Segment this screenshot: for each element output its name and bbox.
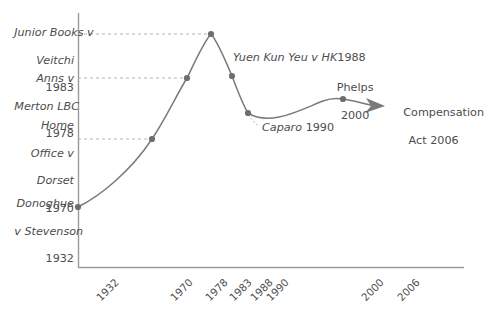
annotation-yuen-kun-yeu: Yuen Kun Yeu v HK1988 [233,51,366,65]
data-point-1988 [229,73,235,79]
annotation-donoghue: Donoghue v Stevenson 1932 [0,183,74,280]
gridlines [78,34,211,139]
annotation-home-office-line1: Home [41,119,74,132]
data-point-1978 [184,75,190,81]
annotation-donoghue-line1: Donoghue [16,197,74,210]
annotation-donoghue-year: 1932 [46,252,74,265]
data-point-1932 [75,204,81,210]
annotation-phelps-case: Phelps [337,81,374,94]
annotation-junior-books-line1: Junior Books v [14,26,93,39]
data-point-1990 [245,110,251,116]
data-point-1983 [208,31,214,37]
annotation-compensation-line1: Compensation [403,106,484,119]
annotation-caparo-case: Caparo [262,121,302,134]
annotation-yuen-kun-yeu-year: 1988 [337,51,365,64]
annotation-anns-line1: Anns v [36,72,74,85]
annotation-yuen-kun-yeu-case: Yuen Kun Yeu v HK [233,51,337,64]
data-point-1970 [149,136,155,142]
annotation-compensation-line2: Act 2006 [409,134,459,147]
annotation-compensation-act: Compensation Act 2006 [389,92,464,161]
annotation-phelps: Phelps 2000 [318,67,378,136]
annotation-phelps-year: 2000 [341,109,369,122]
annotation-home-office-line2: Office v [31,147,74,160]
annotation-donoghue-line2: v Stevenson [14,225,83,238]
